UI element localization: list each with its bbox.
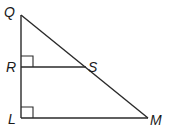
label-s: S	[88, 59, 98, 75]
label-r: R	[6, 59, 16, 75]
label-m: M	[150, 112, 162, 128]
right-angle-marker-l	[21, 107, 33, 118]
label-q: Q	[4, 4, 15, 20]
triangle-diagram: Q R S L M	[0, 0, 171, 136]
label-l: L	[8, 111, 16, 127]
right-angle-marker-r	[21, 56, 33, 67]
